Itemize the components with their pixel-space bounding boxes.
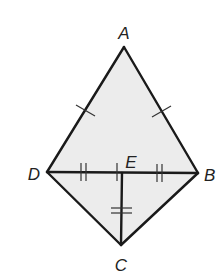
label-C: C bbox=[115, 256, 128, 275]
kite-diagram: A B C D E bbox=[0, 0, 221, 278]
label-E: E bbox=[125, 153, 137, 172]
label-B: B bbox=[204, 166, 215, 185]
label-D: D bbox=[28, 165, 40, 184]
segment-EC bbox=[121, 173, 122, 245]
label-A: A bbox=[117, 24, 129, 43]
